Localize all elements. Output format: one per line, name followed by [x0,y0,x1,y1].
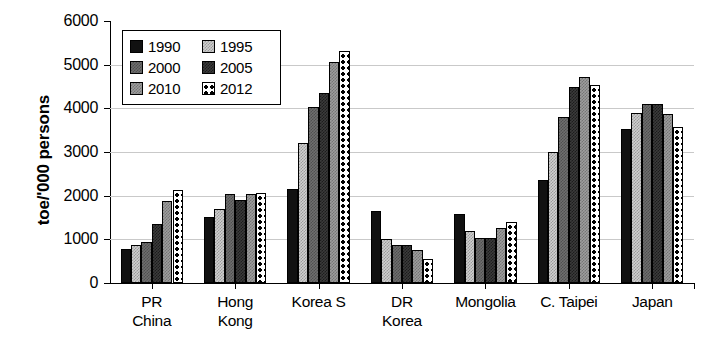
bar[interactable] [204,217,214,283]
bar[interactable] [590,85,600,283]
bar[interactable] [506,222,516,283]
bar[interactable] [308,107,318,283]
bar[interactable] [642,104,652,283]
y-axis-tick-label: 5000 [44,57,98,73]
bar[interactable] [548,152,558,283]
legend-swatch-icon [202,40,215,53]
bar[interactable] [558,117,568,283]
bar[interactable] [538,180,548,283]
x-axis-tick-label: Korea S [274,292,364,311]
legend-item-2005[interactable]: 2005 [202,60,274,75]
legend-swatch-icon [202,61,215,74]
legend-row: 20002005 [130,57,274,78]
x-axis-tick-labels: PR ChinaHong KongKorea SDR KoreaMongolia… [110,292,695,352]
bar[interactable] [381,239,391,283]
x-axis-tick-label: C. Taipei [524,292,614,311]
bar[interactable] [214,209,224,283]
legend-label: 2012 [220,81,252,96]
x-axis-tick-mark [152,283,153,289]
legend-swatch-icon [130,61,143,74]
bar[interactable] [141,242,151,283]
y-axis-tick-labels: 6000500040003000200010000 [38,0,98,357]
bar[interactable] [663,114,673,283]
bar[interactable] [162,201,172,283]
bar[interactable] [319,93,329,283]
x-axis-tick-label: Japan [607,292,697,311]
legend-label: 1990 [148,39,180,54]
x-axis-tick-mark [694,283,695,289]
bar[interactable] [131,245,141,283]
legend-row: 19901995 [130,36,274,57]
legend-swatch-icon [130,40,143,53]
bar[interactable] [256,193,266,283]
legend-item-2012[interactable]: 2012 [202,81,274,96]
bar[interactable] [652,104,662,283]
x-axis-tick-label: Hong Kong [190,292,280,330]
bar[interactable] [454,214,464,283]
legend-item-1995[interactable]: 1995 [202,39,274,54]
legend-item-2010[interactable]: 2010 [130,81,202,96]
bar[interactable] [465,231,475,283]
y-axis-tick-label: 1000 [44,231,98,247]
bar-group [371,21,433,283]
legend-label: 2005 [220,60,252,75]
legend-row: 20102012 [130,78,274,99]
bar[interactable] [225,194,235,283]
bar[interactable] [475,238,485,283]
y-axis-tick-mark [104,21,110,22]
y-axis-tick-label: 0 [44,275,98,291]
y-axis-tick-label: 6000 [44,13,98,29]
x-axis-tick-mark [569,283,570,289]
bar[interactable] [485,238,495,283]
bar[interactable] [412,250,422,283]
y-axis-tick-label: 3000 [44,144,98,160]
bar[interactable] [298,143,308,283]
bar[interactable] [423,259,433,283]
legend-label: 1995 [220,39,252,54]
chart-legend: 199019952000200520102012 [122,30,281,105]
bar[interactable] [339,51,349,283]
legend-swatch-icon [202,82,215,95]
y-axis-tick-mark [104,283,110,284]
bar[interactable] [121,249,131,283]
bar[interactable] [329,62,339,283]
bar[interactable] [579,77,589,283]
bar[interactable] [569,87,579,284]
bar-group [621,21,683,283]
x-axis-tick-mark [402,283,403,289]
x-axis-tick-mark [485,283,486,289]
bar[interactable] [392,245,402,283]
x-axis-tick-mark [319,283,320,289]
bar-group [287,21,349,283]
bar[interactable] [621,129,631,283]
x-axis-tick-label: DR Korea [357,292,447,330]
bar[interactable] [371,211,381,283]
bar[interactable] [173,190,183,283]
legend-item-2000[interactable]: 2000 [130,60,202,75]
bar[interactable] [287,189,297,283]
legend-label: 2000 [148,60,180,75]
y-axis-tick-label: 4000 [44,100,98,116]
y-axis-tick-label: 2000 [44,188,98,204]
x-axis-tick-mark [235,283,236,289]
bar[interactable] [496,228,506,283]
bar-group [454,21,516,283]
bar-group [538,21,600,283]
bar[interactable] [235,200,245,283]
x-axis-tick-label: Mongolia [440,292,530,311]
legend-swatch-icon [130,82,143,95]
x-axis-tick-mark [652,283,653,289]
legend-item-1990[interactable]: 1990 [130,39,202,54]
bar[interactable] [402,245,412,283]
bar[interactable] [152,224,162,283]
bar[interactable] [246,194,256,283]
legend-label: 2010 [148,81,180,96]
bar[interactable] [673,127,683,283]
bar-chart: toe/'000 persons 60005000400030002000100… [0,0,704,357]
x-axis-tick-label: PR China [107,292,197,330]
bar[interactable] [631,113,641,283]
